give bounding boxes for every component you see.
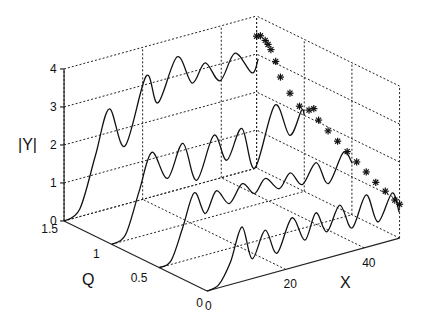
axes [60,69,400,291]
q-tick-label: 1 [93,247,100,261]
side-wall-grid-h [257,16,400,86]
curve-q-0-5 [159,152,352,268]
side-wall-grid-h [257,168,400,238]
asterisk-marker [315,117,322,124]
asterisk-marker [310,105,317,112]
floor-grid-x [143,199,286,269]
asterisk-marker [277,74,284,81]
curve-q-0 [207,193,399,291]
asterisk-marker [396,201,403,208]
back-wall-grid-h [64,130,257,183]
side-wall-grid-h [257,92,400,162]
q-axis-label: Q [82,271,94,288]
asterisk-marker [363,168,370,175]
q-tick-label: 1.5 [41,222,58,236]
x-tick-label: 40 [362,256,376,270]
asterisk-markers [253,32,403,208]
asterisk-marker [334,138,341,145]
floor-grid-q [64,168,257,221]
x-tick-label: 20 [284,277,298,291]
floor-grid-x [221,178,364,248]
data-curves [64,53,399,291]
asterisk-marker [324,127,331,134]
x-tick-label: 0 [205,299,212,313]
asterisk-marker [353,158,360,165]
q-tick-label: 0.5 [131,271,148,285]
curve-q-1 [112,105,305,245]
side-wall-grid-h [257,54,400,124]
z-tick-label: 4 [50,62,57,76]
z-tick-label: 1 [50,176,57,190]
asterisk-marker [344,148,351,155]
curve-q-1-5 [64,53,258,221]
z-tick-label: 2 [50,138,57,152]
grid-lines [64,16,400,269]
asterisk-marker [272,58,279,65]
back-wall-grid-h [64,16,257,69]
floor-grid-q [112,191,305,244]
asterisk-marker [267,46,274,53]
z-axis-label: |Y| [18,136,37,153]
z-tick-label: 3 [50,100,57,114]
asterisk-marker [296,103,303,110]
asterisk-marker [382,188,389,195]
asterisk-marker [286,90,293,97]
x-axis-label: X [340,274,351,291]
q-tick-label: 0 [196,296,203,310]
3d-waterfall-chart: 0123400.511.502040 |Y| Q X [0,0,422,322]
side-wall-grid-h [257,130,400,200]
asterisk-marker [372,179,379,186]
